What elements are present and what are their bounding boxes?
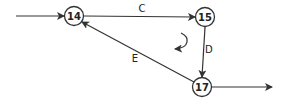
node-14-label: 14 [67, 11, 81, 22]
edge-e-label: E [132, 53, 138, 64]
edge-c-label: C [139, 3, 146, 14]
edge-c [84, 16, 195, 17]
counterclockwise-arrow-icon [175, 33, 187, 49]
node-15-label: 15 [198, 12, 212, 23]
network-diagram: C D E 14 15 17 [0, 0, 288, 100]
node-15: 15 [196, 8, 215, 27]
edge-e [82, 22, 194, 82]
node-17: 17 [193, 78, 212, 97]
edge-d-label: D [205, 44, 213, 55]
node-17-label: 17 [195, 82, 209, 93]
node-14: 14 [65, 7, 84, 26]
